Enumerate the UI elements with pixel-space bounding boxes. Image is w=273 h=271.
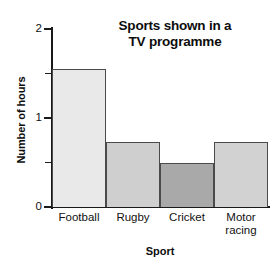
bar-rugby — [106, 142, 160, 207]
bar-chart: Sports shown in a TV programme Number of… — [0, 0, 273, 271]
x-label-line: Rugby — [106, 211, 160, 224]
y-tick-0 — [44, 206, 52, 208]
x-label-line: Cricket — [160, 211, 214, 224]
y-tick-2 — [44, 28, 52, 30]
y-tick-0_5 — [45, 162, 52, 164]
x-label-rugby: Rugby — [106, 211, 160, 224]
x-label-line: Motor — [214, 211, 268, 224]
x-axis-label: Sport — [52, 245, 268, 257]
x-label-motor-racing: Motorracing — [214, 211, 268, 237]
x-label-line: Football — [52, 211, 106, 224]
plot-area — [52, 29, 268, 207]
bar-football — [52, 69, 106, 207]
y-tick-label-2: 2 — [26, 22, 42, 34]
y-tick-label-0: 0 — [26, 200, 42, 212]
bar-cricket — [160, 163, 214, 208]
x-label-cricket: Cricket — [160, 211, 214, 224]
x-label-football: Football — [52, 211, 106, 224]
y-tick-1 — [44, 117, 52, 119]
y-tick-1_5 — [45, 73, 52, 75]
x-label-line: racing — [214, 224, 268, 237]
y-tick-label-1: 1 — [26, 111, 42, 123]
bar-motor-racing — [214, 142, 268, 207]
